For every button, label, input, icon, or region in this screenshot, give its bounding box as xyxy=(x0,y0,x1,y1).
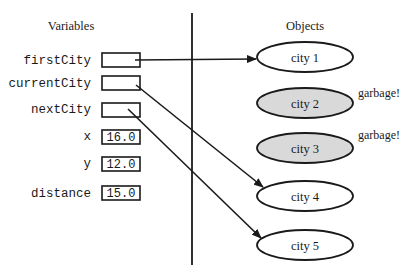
arrow-firstCity-to-city-1 xyxy=(135,59,256,60)
var-label-nextCity: nextCity xyxy=(31,103,92,117)
object-label-city-5: city 5 xyxy=(291,239,319,253)
var-box-firstCity xyxy=(102,53,140,67)
var-label-x: x xyxy=(83,130,91,144)
var-value-distance: 15.0 xyxy=(107,187,136,201)
var-label-distance: distance xyxy=(31,187,91,201)
memory-diagram: Variables Objects firstCity currentCity … xyxy=(0,0,411,279)
var-value-y: 12.0 xyxy=(107,158,136,172)
garbage-note-city-3: garbage! xyxy=(358,128,400,142)
var-label-currentCity: currentCity xyxy=(8,77,91,91)
diagram-svg: Variables Objects firstCity currentCity … xyxy=(0,0,411,279)
object-label-city-2: city 2 xyxy=(291,97,319,111)
object-label-city-4: city 4 xyxy=(291,190,320,204)
object-label-city-1: city 1 xyxy=(291,51,319,65)
var-value-x: 16.0 xyxy=(107,131,136,145)
garbage-note-city-2: garbage! xyxy=(358,86,400,100)
arrow-nextCity-to-city-5 xyxy=(128,109,261,238)
variables-heading: Variables xyxy=(48,19,95,33)
objects-heading: Objects xyxy=(286,19,324,33)
var-label-y: y xyxy=(83,157,91,171)
object-label-city-3: city 3 xyxy=(291,142,319,156)
var-box-currentCity xyxy=(102,76,140,90)
var-label-firstCity: firstCity xyxy=(23,54,91,68)
